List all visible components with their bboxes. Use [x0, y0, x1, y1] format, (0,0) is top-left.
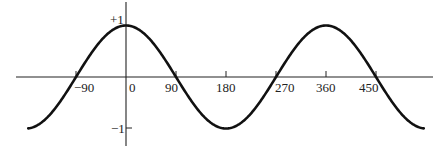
x-tick-label-450: 450 — [359, 81, 379, 94]
x-tick-label-180: 180 — [216, 81, 236, 94]
y-tick-label-neg1: −1 — [111, 122, 125, 135]
x-tick-label-90: 90 — [165, 81, 178, 94]
x-tick-label-neg90: −90 — [74, 81, 94, 94]
cosine-chart — [0, 0, 439, 152]
y-tick-label-pos1: +1 — [110, 13, 124, 26]
x-tick-label-0: 0 — [129, 81, 136, 94]
x-axis-ticks — [76, 71, 376, 77]
x-tick-label-360: 360 — [316, 81, 336, 94]
x-tick-label-270: 270 — [275, 81, 295, 94]
